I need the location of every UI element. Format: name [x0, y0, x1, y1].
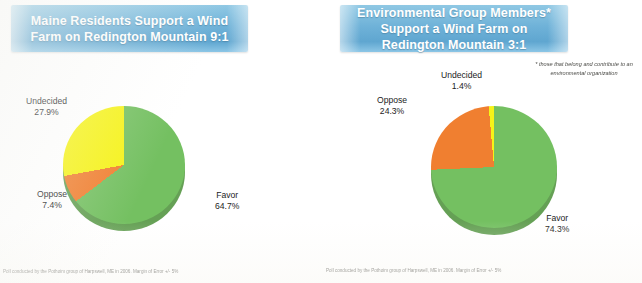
pie-chart-maine: [63, 106, 185, 234]
pie-label-oppose-environmental: Oppose 24.3%: [377, 95, 407, 117]
label-name: Favor: [546, 213, 568, 223]
pie-chart-environmental: [431, 106, 557, 238]
pie-slices-environmental: [431, 106, 557, 228]
label-name: Oppose: [37, 189, 67, 199]
chart-title-text: Maine Residents Support a Wind Farm on R…: [11, 13, 248, 45]
pie-slices-maine: [63, 106, 185, 224]
label-value: 74.3%: [545, 224, 569, 235]
chart-title-banner-environmental: Environmental Group Members* Support a W…: [340, 5, 568, 52]
label-name: Favor: [216, 190, 238, 200]
chart-panel-maine-residents: Maine Residents Support a Wind Farm on R…: [0, 0, 321, 283]
label-value: 64.7%: [215, 201, 239, 212]
chart-title-text: Environmental Group Members* Support a W…: [340, 5, 568, 53]
label-value: 24.3%: [377, 106, 407, 117]
pie-label-oppose-maine: Oppose 7.4%: [37, 189, 67, 211]
label-value: 7.4%: [37, 200, 67, 211]
pie-label-undecided-maine: Undecided 27.9%: [26, 96, 67, 118]
chart-source-note-environmental: Poll conducted by the Pothoim group of H…: [326, 267, 501, 274]
label-name: Undecided: [441, 70, 482, 80]
pie-label-undecided-environmental: Undecided 1.4%: [441, 70, 482, 92]
pie-label-favor-maine: Favor 64.7%: [215, 190, 239, 212]
label-value: 27.9%: [26, 107, 67, 118]
chart-title-banner-maine: Maine Residents Support a Wind Farm on R…: [11, 5, 248, 52]
label-name: Oppose: [377, 95, 407, 105]
pie-label-favor-environmental: Favor 74.3%: [545, 213, 569, 235]
label-value: 1.4%: [441, 81, 482, 92]
chart-footnote-asterisk: * those that belong and contribute to an…: [528, 60, 640, 77]
label-name: Undecided: [26, 96, 67, 106]
chart-source-note-maine: Poll conducted by the Pothoim group of H…: [3, 268, 178, 275]
